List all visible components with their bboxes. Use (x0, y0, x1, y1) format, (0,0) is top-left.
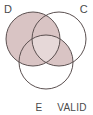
label-circle-c: C (80, 3, 88, 15)
label-circle-d: D (4, 3, 12, 15)
label-circle-e: E (36, 102, 43, 113)
venn-diagram-canvas: D C E VALID (0, 0, 93, 115)
label-validity: VALID (57, 102, 87, 113)
venn-diagram-figure: D C E VALID (0, 0, 93, 115)
